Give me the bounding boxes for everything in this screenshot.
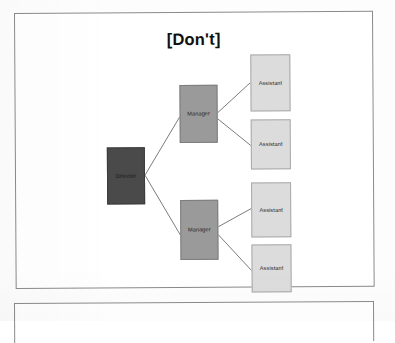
edge-director-manager-2 [145,175,180,235]
node-manager-2[interactable]: Manager [180,200,218,260]
page-title: [Don't] [15,29,372,50]
node-assistant-2[interactable]: Assistant [251,119,291,169]
node-assistant-3[interactable]: Assistant [251,182,291,237]
diagram-panel: [Don't] Director Manager [14,11,375,289]
node-assistant-2-label: Assistant [259,141,283,147]
edge-manager-1-assistant-1 [217,83,250,113]
node-assistant-4[interactable]: Assistant [251,244,291,292]
edge-manager-2-assistant-3 [218,209,251,227]
edge-director-manager-1 [145,117,180,175]
edge-manager-1-assistant-2 [218,119,251,146]
node-assistant-3-label: Assistant [259,206,283,212]
node-assistant-1-label: Assistant [259,79,283,85]
node-assistant-4-label: Assistant [260,265,284,271]
node-manager-2-label: Manager [188,226,211,232]
node-manager-1[interactable]: Manager [179,85,217,143]
node-assistant-1[interactable]: Assistant [250,54,290,111]
next-panel-partial [14,301,374,343]
node-director-label: Director [116,172,136,178]
node-director[interactable]: Director [107,147,145,204]
edge-manager-2-assistant-4 [218,235,251,271]
node-manager-1-label: Manager [187,110,210,116]
